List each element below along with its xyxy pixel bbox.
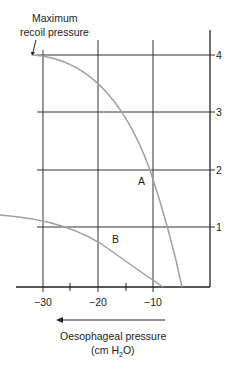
x-tick-neg10: −10 [144,296,162,308]
x-axis-label-pre: (cm H [91,344,119,356]
x-axis-label-post: O) [123,344,135,356]
x-axis-label-line1: Oesophageal pressure [60,330,166,342]
y-tick-2: 2 [216,164,222,176]
annotation-arrow [33,40,36,52]
direction-arrowhead-icon [56,317,63,323]
chart-canvas [0,0,243,371]
x-tick-neg20: −20 [89,296,107,308]
curve-a [33,55,182,287]
y-tick-1: 1 [216,221,222,233]
annotation-line2: recoil pressure [20,26,89,38]
point-label-b: B [112,233,119,245]
y-tick-4: 4 [216,49,222,61]
annotation-line1: Maximum [32,12,78,24]
x-axis-label-line2: (cm H2O) [91,344,135,361]
point-label-a: A [138,175,145,187]
curve-b [0,215,163,287]
y-tick-3: 3 [216,106,222,118]
x-tick-neg30: −30 [34,296,52,308]
